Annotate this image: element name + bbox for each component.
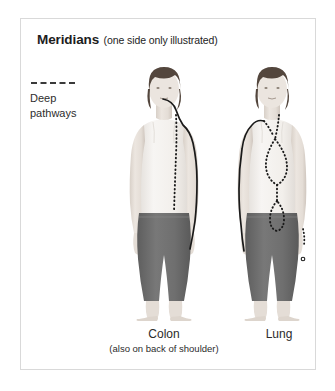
legend: Deep pathways (30, 82, 115, 121)
caption-lung-label: Lung (199, 326, 335, 342)
figure-lung (217, 63, 327, 321)
lung-body-illustration (238, 67, 307, 321)
figure-colon (109, 63, 219, 321)
title-main: Meridians (37, 32, 99, 47)
page-title: Meridians (one side only illustrated) (37, 30, 218, 48)
meridians-figure-panel: Meridians (one side only illustrated) De… (20, 18, 316, 370)
caption-colon-note: (also on back of shoulder) (84, 342, 244, 356)
caption-lung: Lung (199, 326, 335, 342)
legend-label-line2: pathways (30, 106, 115, 121)
legend-label-line1: Deep (30, 91, 115, 106)
dashed-line-swatch-icon (31, 82, 75, 84)
colon-body-illustration (130, 67, 199, 321)
title-subtitle: (one side only illustrated) (104, 34, 218, 46)
